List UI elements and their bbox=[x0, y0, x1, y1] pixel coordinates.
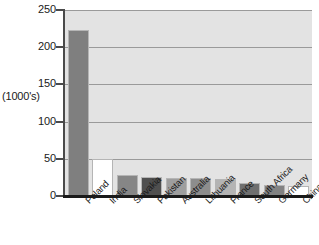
bar-series bbox=[65, 10, 312, 196]
y-tick-mark bbox=[56, 121, 65, 123]
y-tick-label-wrap: 250 bbox=[16, 4, 56, 15]
x-axis-labels: PolandIndiaSlovakiaPakistanAustraliaLith… bbox=[65, 198, 312, 245]
plot-area bbox=[65, 10, 312, 196]
y-tick-label-wrap: 150 bbox=[16, 78, 56, 89]
y-tick-mark bbox=[56, 46, 65, 48]
y-tick-label-wrap: 100 bbox=[16, 116, 56, 127]
y-tick-mark bbox=[56, 9, 65, 11]
y-tick-label: 50 bbox=[26, 153, 56, 164]
y-tick-mark bbox=[56, 83, 65, 85]
y-tick-label-wrap: 50 bbox=[16, 153, 56, 164]
bar bbox=[68, 30, 89, 196]
y-tick-mark bbox=[56, 158, 65, 160]
y-tick-label: 200 bbox=[26, 41, 56, 52]
bar-chart: (1000's) 250200150100500 PolandIndiaSlov… bbox=[0, 0, 319, 245]
y-tick-label: 150 bbox=[26, 78, 56, 89]
y-tick-label: 0 bbox=[26, 190, 56, 201]
y-tick-label-wrap: 200 bbox=[16, 41, 56, 52]
y-axis-label: (1000's) bbox=[2, 90, 40, 102]
y-tick-label-wrap: 0 bbox=[16, 190, 56, 201]
y-tick-label: 100 bbox=[26, 116, 56, 127]
y-tick-label: 250 bbox=[26, 4, 56, 15]
